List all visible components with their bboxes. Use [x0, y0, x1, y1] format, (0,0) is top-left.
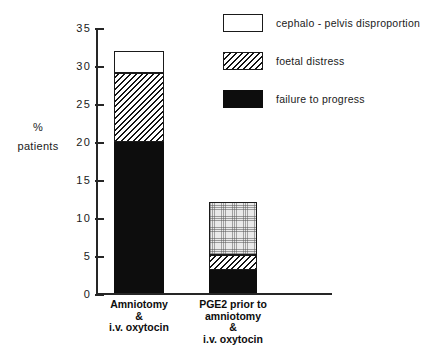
- y-tick-label-10: 10: [76, 212, 91, 224]
- y-tick-mark-20: [95, 142, 104, 144]
- y-tick-mark-15: [95, 180, 104, 182]
- y-axis-title-line-1: %: [6, 118, 70, 137]
- y-tick-25: 25: [60, 98, 104, 110]
- legend-label: failure to progress: [276, 92, 365, 106]
- bar-segment-foetal-distress[interactable]: [114, 73, 164, 141]
- bar-segment-cephalo-pelvis-disproportion[interactable]: [209, 202, 257, 255]
- y-tick-mark-35: [95, 28, 104, 30]
- y-tick-35: 35: [60, 22, 104, 34]
- y-tick-15: 15: [60, 174, 104, 186]
- legend-swatch-solid-icon: [223, 90, 263, 108]
- y-tick-label-35: 35: [76, 22, 91, 34]
- legend-item-failure-to-progress[interactable]: failure to progress: [223, 88, 431, 126]
- legend-swatch-hatch-icon: [223, 52, 263, 70]
- y-tick-label-15: 15: [76, 174, 91, 186]
- bar-pge2[interactable]: [209, 202, 257, 293]
- y-tick-label-30: 30: [76, 60, 91, 72]
- bar-segment-failure-to-progress[interactable]: [209, 270, 257, 293]
- y-tick-20: 20: [60, 136, 104, 148]
- y-tick-5: 5: [60, 250, 104, 262]
- legend-label: cephalo - pelvis disproportion: [276, 16, 420, 30]
- legend-item-cephalo-pelvis-disproportion[interactable]: cephalo - pelvis disproportion: [223, 12, 431, 50]
- x-label-line-1: PGE2 prior to: [178, 299, 288, 311]
- y-tick-mark-25: [95, 104, 104, 106]
- legend-item-foetal-distress[interactable]: foetal distress: [223, 50, 431, 88]
- legend-swatch-empty-icon: [223, 14, 263, 32]
- y-tick-mark-5: [95, 256, 104, 258]
- y-tick-label-25: 25: [76, 98, 91, 110]
- x-label-line-3: &: [178, 322, 288, 334]
- y-tick-30: 30: [60, 60, 104, 72]
- y-tick-label-20: 20: [76, 136, 91, 148]
- y-tick-mark-30: [95, 66, 104, 68]
- bar-segment-failure-to-progress[interactable]: [114, 142, 164, 294]
- y-tick-label-5: 5: [84, 250, 91, 262]
- bar-amniotomy[interactable]: [114, 51, 164, 293]
- x-axis-line: [96, 293, 332, 295]
- stacked-bar-chart: % patients 35 30 25 20 15 10 5 0: [0, 0, 431, 350]
- x-label-line-4: i.v. oxytocin: [178, 334, 288, 346]
- y-tick-mark-10: [95, 218, 104, 220]
- legend-label: foetal distress: [276, 54, 345, 68]
- x-axis-label-pge2: PGE2 prior to amniotomy & i.v. oxytocin: [178, 299, 288, 345]
- chart-legend: cephalo - pelvis disproportion foetal di…: [223, 12, 431, 126]
- y-tick-10: 10: [60, 212, 104, 224]
- bar-segment-foetal-distress[interactable]: [209, 255, 257, 270]
- bar-segment-cephalo-pelvis-disproportion[interactable]: [114, 51, 164, 74]
